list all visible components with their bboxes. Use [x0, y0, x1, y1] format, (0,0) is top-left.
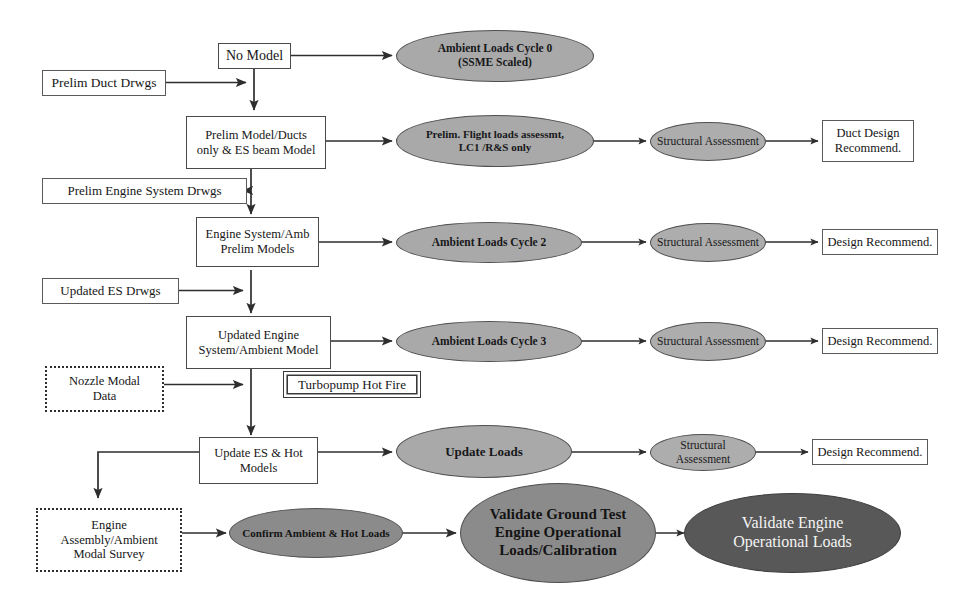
- node-ambient-loads-cycle-2-label: Ambient Loads Cycle 2: [428, 236, 551, 250]
- node-prelim-engine-system-drwgs[interactable]: Prelim Engine System Drwgs: [42, 178, 247, 204]
- node-engine-assembly-modal-survey[interactable]: Engine Assembly/Ambient Modal Survey: [36, 508, 182, 572]
- node-validate-engine-line1: Validate Engine: [738, 514, 848, 533]
- node-design-recommend-3[interactable]: Design Recommend.: [812, 439, 928, 465]
- node-duct-design-recommend-line1: Duct Design: [833, 126, 904, 141]
- node-structural-assessment-2-label: Structural Assessment: [653, 236, 763, 250]
- node-design-recommend-2[interactable]: Design Recommend.: [822, 328, 938, 354]
- node-engine-system-amb-line2: Prelim Models: [217, 242, 299, 257]
- node-validate-ground-test[interactable]: Validate Ground Test Engine Operational …: [460, 483, 656, 583]
- node-structural-assessment-1-label: Structural Assessment: [653, 135, 763, 149]
- node-confirm-ambient-hot-loads[interactable]: Confirm Ambient & Hot Loads: [229, 508, 403, 558]
- node-update-loads[interactable]: Update Loads: [396, 425, 572, 478]
- node-validate-engine-line2: Operational Loads: [729, 533, 856, 552]
- node-validate-engine-operational-loads[interactable]: Validate Engine Operational Loads: [684, 493, 901, 573]
- node-duct-design-recommend[interactable]: Duct Design Recommend.: [822, 120, 914, 162]
- node-nozzle-modal-data-line2: Data: [89, 389, 121, 404]
- node-engine-system-amb-line1: Engine System/Amb: [202, 227, 314, 242]
- node-no-model-label: No Model: [222, 48, 287, 65]
- node-structural-assessment-4[interactable]: Structural Assessment: [650, 434, 756, 471]
- node-updated-es-drwgs[interactable]: Updated ES Drwgs: [42, 278, 179, 304]
- node-design-recommend-3-label: Design Recommend.: [814, 445, 927, 460]
- node-ambient-loads-cycle-0-line1: Ambient Loads Cycle 0: [434, 42, 557, 56]
- node-design-recommend-1-label: Design Recommend.: [824, 235, 937, 250]
- node-validate-ground-test-line2: Engine Operational: [491, 524, 625, 542]
- node-design-recommend-1[interactable]: Design Recommend.: [822, 229, 938, 255]
- node-prelim-engine-system-drwgs-label: Prelim Engine System Drwgs: [63, 183, 225, 198]
- node-structural-assessment-1[interactable]: Structural Assessment: [650, 122, 766, 161]
- node-ambient-loads-cycle-2[interactable]: Ambient Loads Cycle 2: [396, 222, 582, 263]
- node-turbopump-hot-fire[interactable]: Turbopump Hot Fire: [283, 371, 421, 398]
- node-design-recommend-2-label: Design Recommend.: [824, 334, 937, 349]
- node-nozzle-modal-data[interactable]: Nozzle Modal Data: [45, 366, 164, 412]
- node-engine-assembly-line1: Engine: [87, 518, 130, 533]
- node-prelim-flight-loads-line2: LC1 /R&S only: [455, 141, 536, 154]
- node-ambient-loads-cycle-0-line2: (SSME Scaled): [454, 56, 536, 70]
- flowchart-canvas: No Model Ambient Loads Cycle 0 (SSME Sca…: [0, 0, 960, 608]
- node-no-model[interactable]: No Model: [218, 43, 291, 69]
- node-prelim-flight-loads-line1: Prelim. Flight loads assessmt,: [422, 128, 568, 141]
- node-prelim-flight-loads[interactable]: Prelim. Flight loads assessmt, LC1 /R&S …: [396, 115, 594, 167]
- node-confirm-ambient-hot-loads-label: Confirm Ambient & Hot Loads: [238, 527, 393, 540]
- node-turbopump-hot-fire-label: Turbopump Hot Fire: [294, 377, 410, 392]
- node-prelim-duct-drwgs[interactable]: Prelim Duct Drwgs: [42, 70, 166, 96]
- node-ambient-loads-cycle-3[interactable]: Ambient Loads Cycle 3: [396, 321, 582, 362]
- node-nozzle-modal-data-line1: Nozzle Modal: [65, 374, 144, 389]
- node-update-es-hot-models[interactable]: Update ES & Hot Models: [199, 437, 318, 484]
- node-ambient-loads-cycle-3-label: Ambient Loads Cycle 3: [428, 335, 551, 349]
- node-update-es-hot-models-line2: Models: [236, 461, 282, 476]
- node-ambient-loads-cycle-0[interactable]: Ambient Loads Cycle 0 (SSME Scaled): [396, 30, 594, 82]
- node-engine-assembly-line3: Modal Survey: [69, 547, 148, 562]
- node-updated-engine-system[interactable]: Updated Engine System/Ambient Model: [186, 316, 331, 369]
- node-engine-system-amb[interactable]: Engine System/Amb Prelim Models: [196, 217, 319, 267]
- node-validate-ground-test-line3: Loads/Calibration: [495, 542, 621, 560]
- node-prelim-duct-drwgs-label: Prelim Duct Drwgs: [48, 75, 161, 91]
- node-updated-engine-system-line1: Updated Engine: [214, 328, 303, 343]
- node-validate-ground-test-line1: Validate Ground Test: [486, 506, 631, 524]
- node-updated-es-drwgs-label: Updated ES Drwgs: [56, 283, 164, 298]
- node-prelim-model-ducts[interactable]: Prelim Model/Ducts only & ES beam Model: [186, 116, 326, 169]
- node-update-es-hot-models-line1: Update ES & Hot: [210, 446, 307, 461]
- node-structural-assessment-2[interactable]: Structural Assessment: [650, 223, 766, 262]
- node-structural-assessment-3-label: Structural Assessment: [653, 335, 763, 349]
- node-updated-engine-system-line2: System/Ambient Model: [195, 343, 323, 358]
- node-prelim-model-ducts-line2: only & ES beam Model: [193, 143, 320, 158]
- node-engine-assembly-line2: Assembly/Ambient: [56, 533, 161, 548]
- node-duct-design-recommend-line2: Recommend.: [831, 141, 905, 156]
- node-structural-assessment-3[interactable]: Structural Assessment: [650, 322, 766, 361]
- node-prelim-model-ducts-line1: Prelim Model/Ducts: [201, 128, 311, 143]
- node-update-loads-label: Update Loads: [441, 444, 527, 459]
- node-structural-assessment-4-label: Structural Assessment: [651, 439, 755, 466]
